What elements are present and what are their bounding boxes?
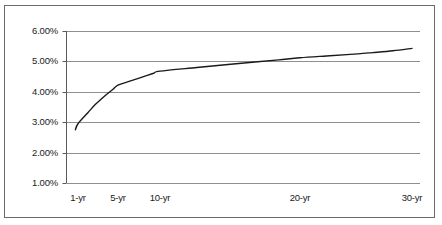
y-axis-tick-label: 2.00% — [12, 147, 58, 158]
x-axis-tick-label: 10-yr — [150, 192, 171, 203]
y-axis-tick-label: 3.00% — [12, 116, 58, 127]
x-axis-tick-label: 5-yr — [110, 192, 126, 203]
gridlines-group — [67, 32, 421, 184]
y-axis-tick-label: 5.00% — [12, 55, 58, 66]
y-axis-ticks-group — [63, 32, 67, 184]
x-axis-tick-label: 20-yr — [290, 192, 311, 203]
y-axis-tick-label: 4.00% — [12, 86, 58, 97]
x-axis-tick-label: 1-yr — [70, 192, 86, 203]
y-axis-tick-label: 1.00% — [12, 177, 58, 188]
yield-curve-plot — [0, 0, 442, 225]
yield-curve-line — [75, 48, 412, 129]
y-axis-tick-label: 6.00% — [12, 25, 58, 36]
x-axis-tick-label: 30-yr — [402, 192, 423, 203]
chart-figure: 1.00%2.00%3.00%4.00%5.00%6.00% 1-yr5-yr1… — [0, 0, 442, 225]
